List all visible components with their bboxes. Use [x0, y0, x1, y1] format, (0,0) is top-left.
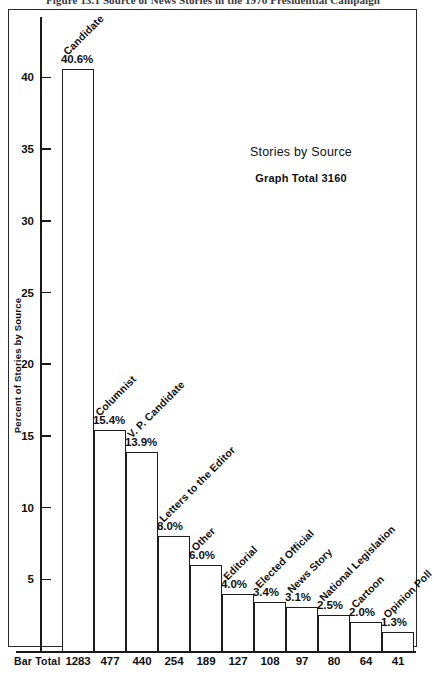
bar-value-label: 3.4%	[253, 586, 279, 598]
annotation-title: Stories by Source	[196, 145, 406, 159]
bar[interactable]	[254, 602, 286, 651]
bar-value-label: 4.0%	[221, 578, 247, 590]
bar-value-label: 8.0%	[157, 520, 183, 532]
bar[interactable]	[382, 632, 414, 651]
bar-total-value: 41	[376, 655, 420, 667]
x-axis-line	[16, 651, 416, 653]
bar[interactable]	[222, 594, 254, 651]
bar-value-label: 2.0%	[349, 606, 375, 618]
bar[interactable]	[318, 615, 350, 651]
figure-caption: Figure 13.1 Source of News Stories in th…	[0, 0, 426, 7]
bar[interactable]	[126, 452, 158, 651]
bar[interactable]	[286, 607, 318, 651]
bar[interactable]	[62, 69, 94, 651]
bar-value-label: 6.0%	[189, 549, 215, 561]
bar-value-label: 1.3%	[381, 616, 407, 628]
bar[interactable]	[190, 565, 222, 651]
bar-value-label: 15.4%	[93, 414, 125, 426]
chart-annotation: Stories by Source Graph Total 3160	[196, 145, 406, 184]
annotation-graph-total: Graph Total 3160	[196, 172, 406, 184]
bar-value-label: 2.5%	[317, 599, 343, 611]
bar[interactable]	[350, 622, 382, 651]
bar-value-label: 3.1%	[285, 591, 311, 603]
bar[interactable]	[158, 536, 190, 651]
bar[interactable]	[94, 430, 126, 651]
bar-total-row-label: Bar Total	[14, 655, 61, 667]
